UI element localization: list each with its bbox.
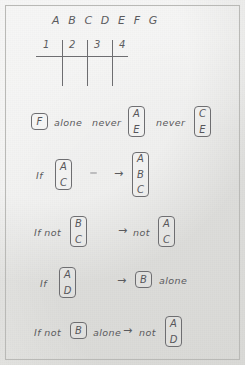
letter-c: C [137, 182, 144, 198]
letter-c: C [60, 175, 67, 191]
letter-a: A [137, 151, 144, 167]
rule3-ifnot-label: If not [34, 227, 61, 238]
grid-divider-3 [112, 40, 113, 86]
letter-f: F [37, 114, 43, 130]
rule2-if-label: If [36, 170, 43, 181]
rule2-box-ac: A C [55, 159, 72, 190]
rule3-box-bc: B C [70, 216, 87, 247]
tally-grid: 1 2 3 4 [36, 38, 132, 88]
letter-b: B [137, 167, 144, 183]
grid-divider-2 [87, 40, 88, 86]
notes-page: A B C D E F G 1 2 3 4 F alone never A E … [0, 0, 245, 365]
letter-a: A [170, 316, 177, 332]
rule2-erased-mark [90, 172, 97, 174]
rule4-arrow-icon: → [117, 274, 127, 287]
letter-b: B [75, 216, 82, 232]
letter-c: C [163, 232, 170, 248]
rule4-if-label: If [40, 278, 47, 289]
rule5-not-label: not [139, 327, 156, 338]
letter-b: B [75, 323, 82, 339]
rule1-alone-label: alone [54, 117, 82, 128]
rule1-never-label-2: never [156, 117, 185, 128]
grid-divider-1 [62, 40, 63, 86]
rule3-not-label: not [133, 227, 150, 238]
rule4-alone-label: alone [159, 275, 187, 286]
letter-e: E [199, 122, 205, 138]
rule4-box-ad: A D [59, 267, 76, 298]
rule1-box-f: F [31, 113, 48, 130]
letter-d: D [170, 332, 178, 348]
rule5-box-b: B [70, 322, 87, 339]
grid-column-header-1: 1 [43, 39, 49, 50]
letter-e: E [133, 122, 139, 138]
rule3-arrow-icon: → [118, 224, 128, 237]
page-title: A B C D E F G [52, 14, 160, 27]
rule5-ifnot-label: If not [34, 327, 61, 338]
rule1-box-ae: A E [128, 106, 145, 137]
rule3-box-ac: A C [158, 216, 175, 247]
grid-column-header-3: 3 [94, 39, 100, 50]
letter-a: A [60, 159, 67, 175]
letter-b: B [140, 272, 147, 288]
letter-a: A [163, 216, 170, 232]
rule4-box-b: B [135, 271, 152, 288]
rule2-box-abc: A B C [132, 152, 149, 197]
grid-column-header-4: 4 [119, 39, 125, 50]
grid-horizontal-rule [36, 56, 128, 57]
rule2-arrow-icon: → [114, 167, 124, 180]
letter-c: C [75, 232, 82, 248]
letter-c: C [199, 106, 206, 122]
rule5-alone-label: alone [93, 327, 121, 338]
letter-a: A [133, 106, 140, 122]
rule1-box-ce: C E [194, 106, 211, 137]
letter-d: D [64, 283, 72, 299]
rule5-box-ad: A D [165, 316, 182, 347]
grid-column-header-2: 2 [69, 39, 75, 50]
letter-a: A [64, 267, 71, 283]
rule1-never-label-1: never [92, 117, 121, 128]
rule5-arrow-icon: → [123, 324, 133, 337]
